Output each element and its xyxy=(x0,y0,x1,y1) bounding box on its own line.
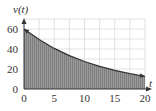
x-tick-label: 0 xyxy=(21,92,27,104)
x-tick-label: 15 xyxy=(109,92,121,104)
y-tick-label: 20 xyxy=(7,63,19,75)
x-axis-label: t xyxy=(149,77,153,89)
x-tick-label: 20 xyxy=(140,92,152,104)
x-tick-label: 5 xyxy=(52,92,58,104)
y-tick-label: 60 xyxy=(7,23,19,35)
y-tick-labels: 0204060 xyxy=(7,23,19,95)
x-tick-label: 10 xyxy=(79,92,91,104)
y-axis-label: v(t) xyxy=(13,3,29,16)
chart: 0204060 05101520 v(t) t xyxy=(0,0,156,111)
y-tick-label: 40 xyxy=(7,43,19,55)
y-tick-label: 0 xyxy=(13,83,19,95)
x-tick-labels: 05101520 xyxy=(21,92,151,104)
